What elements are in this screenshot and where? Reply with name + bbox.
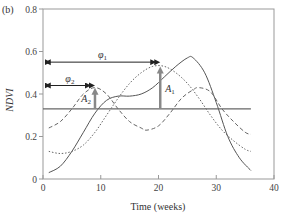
ndvi-chart: (b) 00.20.40.60.8 010203040 NDVI Time (w… (0, 0, 281, 217)
annotation-label: A2 (80, 93, 91, 106)
annotation-label: A1 (164, 83, 175, 96)
panel-label: (b) (2, 4, 14, 16)
x-axis-title: Time (weeks) (131, 201, 186, 213)
A2-arrowhead-icon (91, 88, 98, 95)
y-axis: 00.20.40.60.8 (25, 5, 43, 185)
plot-frame (43, 9, 274, 179)
phi1-arrowhead-right-icon (154, 59, 160, 65)
phi2-arrowhead-left-icon (45, 83, 51, 89)
series-dashed-line (49, 88, 251, 135)
y-tick-label: 0.2 (25, 132, 37, 142)
annotation-layer: φ1φ2A1A2 (45, 49, 176, 109)
series-layer (43, 56, 251, 172)
phi1-arrowhead-left-icon (45, 59, 51, 65)
x-axis: 010203040 (41, 175, 279, 193)
annotation-label: φ2 (65, 73, 75, 86)
x-tick-label: 0 (41, 183, 46, 193)
y-tick-label: 0.4 (25, 90, 37, 100)
A1-arrowhead-icon (157, 66, 164, 73)
annotation-label: φ1 (98, 49, 108, 62)
x-tick-label: 30 (212, 183, 222, 193)
y-axis-title: NDVI (4, 88, 15, 113)
series-solid-line (49, 56, 251, 172)
x-tick-label: 20 (154, 183, 164, 193)
x-tick-label: 40 (269, 183, 279, 193)
y-tick-label: 0.8 (25, 5, 37, 15)
y-tick-label: 0 (32, 175, 37, 185)
x-tick-label: 10 (96, 183, 106, 193)
y-tick-label: 0.6 (25, 47, 37, 57)
